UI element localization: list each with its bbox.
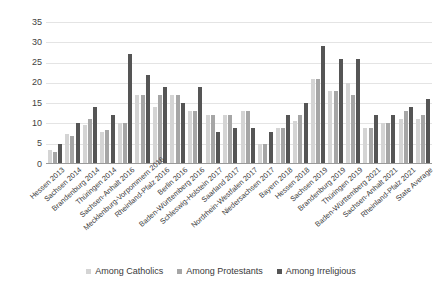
bar xyxy=(153,107,157,164)
bar-group xyxy=(151,22,169,164)
bar-group xyxy=(362,22,380,164)
bar xyxy=(346,83,350,164)
bar xyxy=(181,103,185,164)
bar xyxy=(391,115,395,164)
x-axis-labels: Hessen 2013Sachsen 2014Brandenburg 2014T… xyxy=(46,166,432,252)
bar-group xyxy=(99,22,117,164)
bar xyxy=(404,111,408,164)
bar xyxy=(298,115,302,164)
y-axis-tick-label: 20 xyxy=(18,78,42,87)
bar xyxy=(426,99,430,164)
bar-group xyxy=(46,22,64,164)
y-axis: 05101520253035 xyxy=(18,22,42,164)
chart-legend: Among CatholicsAmong ProtestantsAmong Ir… xyxy=(0,266,442,276)
bar xyxy=(276,128,280,165)
legend-swatch-icon xyxy=(277,269,282,274)
bar xyxy=(241,111,245,164)
bar xyxy=(263,144,267,164)
bar xyxy=(293,121,297,164)
bar-group xyxy=(116,22,134,164)
bar-group xyxy=(239,22,257,164)
bar xyxy=(339,59,343,164)
bar xyxy=(83,125,87,164)
bar xyxy=(269,132,273,164)
bar xyxy=(233,128,237,165)
bar xyxy=(158,95,162,164)
bar xyxy=(163,87,167,164)
bar-group xyxy=(414,22,432,164)
bar xyxy=(93,107,97,164)
legend-item[interactable]: Among Irreligious xyxy=(277,266,356,276)
bar-group xyxy=(397,22,415,164)
bar xyxy=(118,123,122,164)
x-axis-line xyxy=(46,163,432,164)
bar xyxy=(369,128,373,165)
bar xyxy=(399,119,403,164)
bar xyxy=(328,91,332,164)
bar xyxy=(409,107,413,164)
bar xyxy=(141,95,145,164)
y-axis-tick-label: 5 xyxy=(18,139,42,148)
bar-group xyxy=(204,22,222,164)
bar xyxy=(223,115,227,164)
bar xyxy=(216,132,220,164)
bar-group xyxy=(186,22,204,164)
bar xyxy=(206,115,210,164)
bar-group xyxy=(327,22,345,164)
bar-group xyxy=(257,22,275,164)
bar xyxy=(334,91,338,164)
bar xyxy=(416,119,420,164)
bar xyxy=(111,115,115,164)
bar xyxy=(311,79,315,164)
y-axis-tick-label: 35 xyxy=(18,18,42,27)
y-axis-tick-label: 25 xyxy=(18,58,42,67)
bar-chart: 05101520253035 Hessen 2013Sachsen 2014Br… xyxy=(0,0,442,289)
bar-group xyxy=(134,22,152,164)
y-axis-tick-label: 10 xyxy=(18,119,42,128)
bar xyxy=(105,130,109,164)
bar xyxy=(135,95,139,164)
bar xyxy=(281,128,285,165)
bar xyxy=(316,79,320,164)
bar xyxy=(421,115,425,164)
bar-group xyxy=(81,22,99,164)
y-axis-tick-label: 15 xyxy=(18,99,42,108)
y-axis-tick-label: 30 xyxy=(18,38,42,47)
bar xyxy=(123,123,127,164)
bar-groups xyxy=(46,22,432,164)
bar xyxy=(251,128,255,165)
bar xyxy=(100,132,104,164)
bar xyxy=(188,111,192,164)
legend-swatch-icon xyxy=(86,269,91,274)
bar xyxy=(146,75,150,164)
legend-item[interactable]: Among Catholics xyxy=(86,266,163,276)
bar-group xyxy=(64,22,82,164)
bar xyxy=(304,103,308,164)
bar xyxy=(381,123,385,164)
bar xyxy=(356,59,360,164)
bar xyxy=(58,144,62,164)
bar-group xyxy=(169,22,187,164)
bar xyxy=(128,54,132,164)
bar-group xyxy=(309,22,327,164)
legend-label: Among Catholics xyxy=(95,266,163,276)
bar xyxy=(228,115,232,164)
bar xyxy=(198,87,202,164)
legend-label: Among Protestants xyxy=(186,266,263,276)
bar-group xyxy=(274,22,292,164)
y-axis-tick-label: 0 xyxy=(18,160,42,169)
bar xyxy=(321,46,325,164)
bar xyxy=(48,150,52,164)
bar xyxy=(258,144,262,164)
bar xyxy=(76,123,80,164)
plot-area xyxy=(46,22,432,164)
bar-group xyxy=(344,22,362,164)
legend-item[interactable]: Among Protestants xyxy=(177,266,263,276)
bar xyxy=(88,119,92,164)
bar xyxy=(286,115,290,164)
bar xyxy=(70,136,74,164)
bar-group xyxy=(292,22,310,164)
bar xyxy=(363,128,367,165)
bar-group xyxy=(379,22,397,164)
legend-label: Among Irreligious xyxy=(286,266,356,276)
